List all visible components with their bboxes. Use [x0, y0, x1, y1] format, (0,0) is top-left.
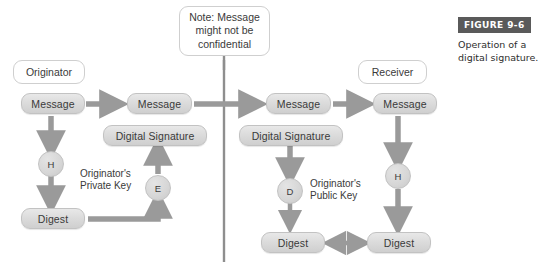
hash-circle-right: H [385, 163, 411, 189]
hash-circle-left: H [38, 151, 64, 177]
receiver-label: Receiver [358, 60, 427, 84]
digital-signature-box-right: Digital Signature [239, 125, 343, 146]
arrow-digest-encrypt [88, 199, 158, 219]
digital-signature-box-left: Digital Signature [103, 125, 207, 146]
figure-block: FIGURE 9-6 Operation of a digital signat… [458, 14, 542, 65]
message-box-2: Message [127, 93, 192, 114]
digest-box-left: Digest [21, 208, 85, 229]
message-box-4: Message [373, 93, 437, 114]
digest-box-right: Digest [367, 232, 431, 253]
figure-caption: Operation of a digital signature. [458, 39, 542, 65]
private-key-annotation: Originator's Private Key [80, 168, 146, 192]
message-box-3: Message [266, 93, 331, 114]
digest-box-center: Digest [261, 232, 325, 253]
public-key-annotation: Originator's Public Key [310, 178, 376, 202]
message-box-1: Message [21, 93, 85, 114]
figure-badge: FIGURE 9-6 [458, 17, 531, 33]
decrypt-circle: D [277, 178, 303, 204]
originator-label: Originator [13, 60, 85, 84]
figure-canvas: Note: Message might not be confidential … [0, 0, 546, 277]
note-callout: Note: Message might not be confidential [179, 6, 270, 56]
encrypt-circle: E [145, 175, 171, 201]
